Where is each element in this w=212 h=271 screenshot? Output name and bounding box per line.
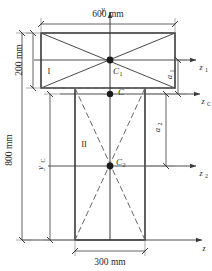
section-label-one: I xyxy=(48,66,51,76)
centroid-point-c xyxy=(107,91,113,97)
dim-label-yc: y xyxy=(36,166,45,171)
centroid-point-c1 xyxy=(107,57,114,64)
dim-label-a2-sub: 2 xyxy=(157,123,163,126)
cross-section-figure: 600 mm 200 mm 800 mm y C 300 mm xyxy=(0,0,212,271)
point-label-c1-sub: 1 xyxy=(120,71,123,77)
dim-label-300: 300 mm xyxy=(94,257,126,267)
dim-label-yc-sub: C xyxy=(40,158,46,162)
dim-label-a1-sub: 1 xyxy=(169,70,175,73)
centroid-point-c2 xyxy=(107,163,114,170)
dim-label-a2: a xyxy=(153,128,162,132)
dim-label-200: 200 mm xyxy=(14,44,24,76)
dim-label-600: 600 mm xyxy=(92,9,124,19)
dim-label-a1: a xyxy=(165,75,174,79)
axis-label-zc-sub: C xyxy=(207,101,211,107)
figure-background xyxy=(0,0,212,271)
axis-label-z2-sub: 2 xyxy=(205,173,208,179)
point-label-c: C xyxy=(118,87,125,97)
point-label-c2-sub: 2 xyxy=(123,162,126,168)
axis-label-z1-sub: 1 xyxy=(205,67,208,73)
section-label-two: II xyxy=(81,139,87,149)
axis-label-y: y xyxy=(100,5,105,14)
dim-label-800: 800 mm xyxy=(4,134,14,166)
